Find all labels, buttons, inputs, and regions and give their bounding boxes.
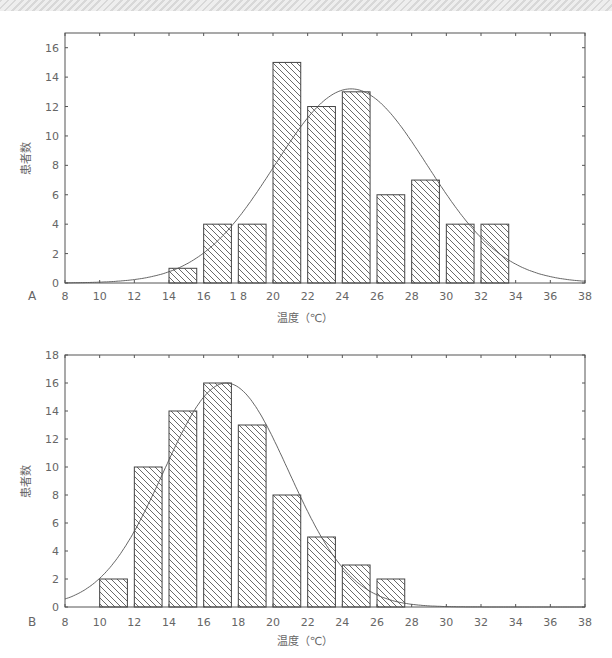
- y-tick-label: 4: [52, 218, 59, 231]
- x-tick-label: 36: [543, 616, 557, 629]
- histogram-bar: [446, 224, 474, 283]
- y-tick-label: 2: [52, 573, 59, 586]
- x-tick-label: 34: [509, 616, 523, 629]
- x-tick-label: 28: [405, 616, 419, 629]
- y-tick-label: 6: [52, 517, 59, 530]
- y-tick-label: 0: [52, 277, 59, 290]
- x-tick-label: 12: [127, 616, 141, 629]
- y-tick-label: 14: [45, 71, 59, 84]
- x-tick-label: 36: [543, 290, 557, 303]
- x-tick-label: 8: [62, 290, 69, 303]
- x-axis-label: 温度（℃）: [277, 634, 333, 648]
- x-tick-label: 38: [578, 290, 592, 303]
- histogram-bar: [308, 107, 336, 283]
- x-tick-label: 26: [370, 290, 384, 303]
- chart-a: 8101214161 82022242628303234363802468101…: [20, 33, 592, 325]
- x-tick-label: 14: [162, 290, 176, 303]
- panel-label: A: [28, 289, 37, 303]
- chart-b: 8101214161820222426283032343638024681012…: [20, 349, 592, 648]
- x-tick-label: 20: [266, 290, 280, 303]
- histogram-bar: [238, 224, 266, 283]
- x-tick-label: 24: [335, 290, 349, 303]
- histogram-bar: [481, 224, 509, 283]
- x-tick-label: 16: [197, 290, 211, 303]
- x-tick-label: 28: [405, 290, 419, 303]
- y-axis-label: 患者数: [20, 142, 33, 175]
- y-tick-label: 12: [45, 433, 59, 446]
- x-tick-label: 18: [231, 616, 245, 629]
- y-tick-label: 12: [45, 101, 59, 114]
- histogram-bar: [238, 425, 266, 607]
- y-tick-label: 8: [52, 489, 59, 502]
- histogram-bar: [342, 565, 370, 607]
- histogram-bar: [204, 224, 232, 283]
- x-tick-label: 32: [474, 616, 488, 629]
- x-tick-label: 10: [93, 290, 107, 303]
- histogram-bar: [273, 62, 301, 283]
- y-tick-label: 8: [52, 159, 59, 172]
- x-tick-label: 1 8: [230, 290, 248, 303]
- x-tick-label: 30: [439, 290, 453, 303]
- y-tick-label: 14: [45, 405, 59, 418]
- x-tick-label: 16: [197, 616, 211, 629]
- y-tick-label: 16: [45, 377, 59, 390]
- x-tick-label: 30: [439, 616, 453, 629]
- x-tick-label: 22: [301, 290, 315, 303]
- histogram-bar: [412, 180, 440, 283]
- y-tick-label: 10: [45, 130, 59, 143]
- x-tick-label: 12: [127, 290, 141, 303]
- x-tick-label: 26: [370, 616, 384, 629]
- histogram-figure: 8101214161 82022242628303234363802468101…: [0, 0, 612, 658]
- y-tick-label: 6: [52, 189, 59, 202]
- histogram-bar: [342, 92, 370, 283]
- x-tick-label: 14: [162, 616, 176, 629]
- x-tick-label: 10: [93, 616, 107, 629]
- histogram-bar: [100, 579, 128, 607]
- x-tick-label: 8: [62, 616, 69, 629]
- histogram-bar: [273, 495, 301, 607]
- y-axis-label: 患者数: [20, 465, 33, 498]
- x-tick-label: 24: [335, 616, 349, 629]
- x-tick-label: 32: [474, 290, 488, 303]
- x-tick-label: 34: [509, 290, 523, 303]
- panel-label: B: [28, 615, 36, 629]
- y-tick-label: 16: [45, 42, 59, 55]
- y-tick-label: 10: [45, 461, 59, 474]
- x-tick-label: 22: [301, 616, 315, 629]
- x-axis-label: 温度（℃）: [277, 311, 333, 325]
- y-tick-label: 2: [52, 248, 59, 261]
- histogram-bar: [308, 537, 336, 607]
- y-tick-label: 18: [45, 349, 59, 362]
- x-tick-label: 20: [266, 616, 280, 629]
- x-tick-label: 38: [578, 616, 592, 629]
- y-tick-label: 4: [52, 545, 59, 558]
- histogram-bar: [377, 195, 405, 283]
- histogram-bar: [134, 467, 162, 607]
- histogram-bar: [204, 383, 232, 607]
- histogram-bar: [169, 411, 197, 607]
- y-tick-label: 0: [52, 601, 59, 614]
